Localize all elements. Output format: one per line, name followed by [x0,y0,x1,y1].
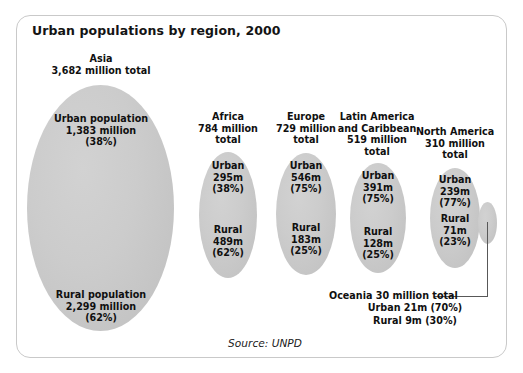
region-header-asia: Asia 3,682 million total [27,53,175,76]
page-title: Urban populations by region, 2000 [32,23,281,38]
source-note: Source: UNPD [180,337,350,349]
region-rural-label-asia: Rural population 2,299 million (62%) [32,289,170,324]
region-rural-label-north-america: Rural 71m (23%) [430,213,480,248]
oceania-total-line: Oceania 30 million total [325,290,505,302]
region-header-latin-america: Latin America and Caribbean 519 million … [334,111,420,157]
region-rural-label-europe: Rural 183m (25%) [276,222,336,257]
oceania-urban-line: Urban 21m (70%) [325,302,505,314]
region-urban-label-europe: Urban 546m (75%) [276,160,336,195]
region-urban-label-africa: Urban 295m (38%) [199,160,257,195]
region-rural-label-africa: Rural 489m (62%) [199,224,257,259]
region-urban-label-asia: Urban population 1,383 million (38%) [32,113,170,148]
region-header-north-america: North America 310 million total [414,126,496,161]
region-caption-oceania: Oceania 30 million total Urban 21m (70%)… [325,290,505,327]
region-urban-label-latin-america: Urban 391m (75%) [350,170,406,205]
oceania-rural-line: Rural 9m (30%) [325,315,505,327]
region-header-europe: Europe 729 million total [270,111,342,146]
region-urban-label-north-america: Urban 239m (77%) [430,174,480,209]
region-rural-label-latin-america: Rural 128m (25%) [350,226,406,261]
region-header-africa: Africa 784 million total [192,111,264,146]
oceania-leader-line-vertical [487,222,488,297]
